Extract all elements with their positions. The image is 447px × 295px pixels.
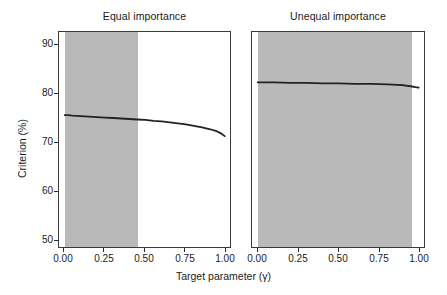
plot-area-equal-importance <box>58 31 231 248</box>
panel-title-left: Equal importance <box>58 10 231 22</box>
curve-unequal-importance <box>252 32 425 248</box>
x-tick-label-r-1: 0.25 <box>281 253 315 264</box>
x-tick-mark-l-3 <box>184 248 185 252</box>
x-tick-mark-l-2 <box>144 248 145 252</box>
x-tick-mark-r-0 <box>257 248 258 252</box>
plot-area-unequal-importance <box>251 31 425 248</box>
y-tick-label-50: 50 <box>27 234 53 245</box>
x-tick-label-r-3: 0.75 <box>362 253 396 264</box>
x-tick-label-l-4: 1.00 <box>208 253 242 264</box>
curve-equal-importance <box>59 32 231 248</box>
x-tick-mark-r-4 <box>419 248 420 252</box>
x-tick-label-r-4: 1.00 <box>402 253 436 264</box>
x-tick-mark-r-2 <box>338 248 339 252</box>
x-tick-mark-l-1 <box>103 248 104 252</box>
x-tick-label-l-3: 0.75 <box>168 253 202 264</box>
y-tick-label-90: 90 <box>27 38 53 49</box>
y-tick-label-70: 70 <box>27 136 53 147</box>
y-axis-label: Criterion (%) <box>16 119 28 178</box>
x-tick-mark-l-4 <box>225 248 226 252</box>
y-tick-label-60: 60 <box>27 185 53 196</box>
y-tick-label-80: 80 <box>27 87 53 98</box>
x-tick-mark-r-1 <box>298 248 299 252</box>
figure-canvas: Equal importance Unequal importance Crit… <box>0 0 447 295</box>
x-tick-label-l-0: 0.00 <box>46 253 80 264</box>
x-tick-label-l-1: 0.25 <box>87 253 121 264</box>
panel-title-right: Unequal importance <box>251 10 425 22</box>
x-axis-label: Target parameter (γ) <box>0 270 447 282</box>
x-tick-mark-r-3 <box>379 248 380 252</box>
x-tick-label-r-0: 0.00 <box>240 253 274 264</box>
x-tick-mark-l-0 <box>63 248 64 252</box>
x-tick-label-r-2: 0.50 <box>321 253 355 264</box>
x-tick-label-l-2: 0.50 <box>127 253 161 264</box>
